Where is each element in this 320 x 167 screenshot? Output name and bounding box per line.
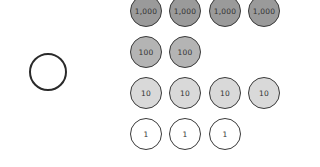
coin-one: 1 bbox=[130, 118, 162, 150]
coin-label: 1,000 bbox=[135, 7, 157, 16]
coin-label: 1,000 bbox=[214, 7, 236, 16]
coin-hundred: 100 bbox=[130, 36, 162, 68]
coin-label: 100 bbox=[139, 48, 154, 57]
coin-one: 1 bbox=[169, 118, 201, 150]
coin-ten: 10 bbox=[130, 77, 162, 109]
coin-label: 10 bbox=[180, 89, 190, 98]
coin-label: 1 bbox=[144, 130, 149, 139]
coin-label: 10 bbox=[220, 89, 230, 98]
empty-circle bbox=[29, 53, 67, 91]
coin-label: 10 bbox=[141, 89, 151, 98]
coin-thousand: 1,000 bbox=[209, 0, 241, 27]
coin-hundred: 100 bbox=[169, 36, 201, 68]
coin-thousand: 1,000 bbox=[130, 0, 162, 27]
coin-label: 1,000 bbox=[253, 7, 275, 16]
coin-thousand: 1,000 bbox=[248, 0, 280, 27]
coin-label: 1,000 bbox=[174, 7, 196, 16]
coin-ten: 10 bbox=[248, 77, 280, 109]
coin-label: 1 bbox=[223, 130, 228, 139]
coin-ten: 10 bbox=[209, 77, 241, 109]
coin-label: 100 bbox=[178, 48, 193, 57]
coin-label: 1 bbox=[183, 130, 188, 139]
coin-thousand: 1,000 bbox=[169, 0, 201, 27]
coin-label: 10 bbox=[259, 89, 269, 98]
coin-ten: 10 bbox=[169, 77, 201, 109]
coin-one: 1 bbox=[209, 118, 241, 150]
